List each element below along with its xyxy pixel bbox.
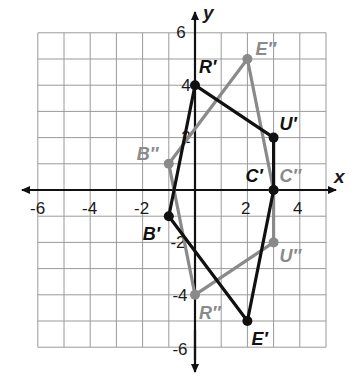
vertex-label: C′ <box>246 166 264 186</box>
coordinate-plane: x y -6 -4 -2 2 4 6 4 2 -2 -4 -6 B″E″C″U″… <box>0 0 351 383</box>
vertex-point <box>242 54 252 64</box>
vertex-label: E′ <box>251 329 268 349</box>
vertex-label: C″ <box>280 166 303 186</box>
vertex-label: B′ <box>143 224 161 244</box>
vertex-point <box>190 290 200 300</box>
y-axis-label: y <box>202 2 215 23</box>
vertex-label: R′ <box>199 57 217 77</box>
vertex-point <box>242 316 252 326</box>
x-tick: -4 <box>82 199 97 218</box>
vertex-point <box>269 185 279 195</box>
x-tick: -2 <box>134 199 149 218</box>
axes: x y <box>22 2 346 372</box>
vertex-point <box>164 159 174 169</box>
vertex-label: B″ <box>137 144 160 164</box>
x-tick: -6 <box>30 199 45 218</box>
x-tick: 2 <box>241 199 250 218</box>
y-tick: -6 <box>172 340 187 359</box>
y-tick: -4 <box>172 286 187 305</box>
x-tick: 4 <box>293 199 302 218</box>
y-tick: 6 <box>176 23 185 42</box>
y-tick: 4 <box>181 76 190 95</box>
vertex-label: R″ <box>199 303 222 323</box>
vertex-label: E″ <box>255 39 277 59</box>
vertex-label: U″ <box>280 246 303 266</box>
vertex-point <box>190 80 200 90</box>
vertex-point <box>164 211 174 221</box>
vertex-point <box>269 133 279 143</box>
vertex-point <box>269 237 279 247</box>
double-prime-pentagon: B″E″C″U″R″ <box>137 39 303 323</box>
x-axis-label: x <box>333 166 346 187</box>
vertex-label: U′ <box>280 114 298 134</box>
